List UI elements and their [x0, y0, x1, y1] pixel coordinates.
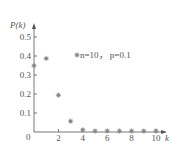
data-point	[92, 128, 97, 133]
data-point	[129, 128, 134, 133]
legend-marker-icon	[74, 52, 79, 57]
x-tick-label: 2	[56, 133, 61, 143]
legend-label: n=10， p=0.1	[80, 50, 131, 60]
data-point	[68, 119, 73, 124]
x-tick-label: 10	[152, 133, 162, 143]
x-axis-title: k	[165, 133, 170, 143]
x-tick-label: 6	[105, 133, 110, 143]
y-axis	[32, 23, 36, 132]
origin-label: 0	[26, 132, 31, 142]
y-axis-title: P(k)	[9, 20, 26, 30]
y-tick-label: 0.3	[20, 70, 32, 80]
y-tick-label: 0.5	[20, 32, 32, 42]
y-tick-label: 0.2	[20, 89, 31, 99]
data-points	[31, 56, 158, 134]
x-axis	[34, 130, 167, 134]
y-tick-label: 0.4	[20, 51, 32, 61]
data-point	[105, 128, 110, 133]
data-point	[153, 128, 158, 133]
data-point	[80, 127, 85, 132]
y-ticks: 0.10.20.30.40.5	[20, 32, 37, 118]
data-point	[117, 128, 122, 133]
y-tick-label: 0.1	[20, 108, 31, 118]
data-point	[31, 63, 36, 68]
chart: P(k) k 0 0.10.20.30.40.5 246810 n=10， p=…	[0, 0, 183, 157]
legend: n=10， p=0.1	[74, 50, 130, 60]
x-tick-label: 8	[129, 133, 134, 143]
data-point	[56, 93, 61, 98]
x-tick-label: 4	[81, 133, 86, 143]
data-point	[44, 56, 49, 61]
data-point	[141, 128, 146, 133]
